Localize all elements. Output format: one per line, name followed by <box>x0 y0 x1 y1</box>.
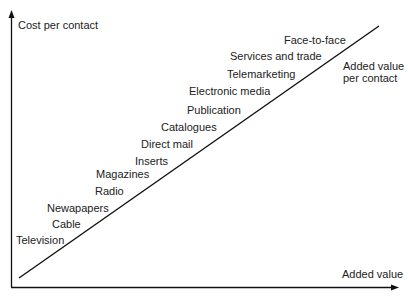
axes-and-line <box>0 0 408 297</box>
media-label-inserts: Inserts <box>135 155 168 167</box>
line-label-line2: per contact <box>343 72 397 84</box>
cost-value-diagram: Cost per contact Added value Added value… <box>0 0 408 297</box>
media-label-radio: Radio <box>95 185 124 197</box>
media-label-magazines: Magazines <box>96 168 149 180</box>
line-label-line1: Added value <box>343 60 404 72</box>
media-label-face-to-face: Face-to-face <box>284 34 346 46</box>
media-label-services-and-trade: Services and trade <box>230 50 322 62</box>
media-label-cable: Cable <box>52 218 81 230</box>
media-label-television: Television <box>16 234 64 246</box>
added-value-line <box>19 26 379 278</box>
media-label-direct-mail: Direct mail <box>141 138 193 150</box>
media-label-newspapers: Newapapers <box>47 202 109 214</box>
media-label-catalogues: Catalogues <box>161 121 217 133</box>
x-axis-arrow-icon <box>391 285 399 291</box>
y-axis-label: Cost per contact <box>18 19 98 31</box>
media-label-publication: Publication <box>187 104 241 116</box>
x-axis-label: Added value <box>342 268 403 280</box>
media-label-telemarketing: Telemarketing <box>227 68 295 80</box>
media-label-electronic-media: Electronic media <box>189 85 270 97</box>
y-axis-arrow-icon <box>9 10 15 18</box>
